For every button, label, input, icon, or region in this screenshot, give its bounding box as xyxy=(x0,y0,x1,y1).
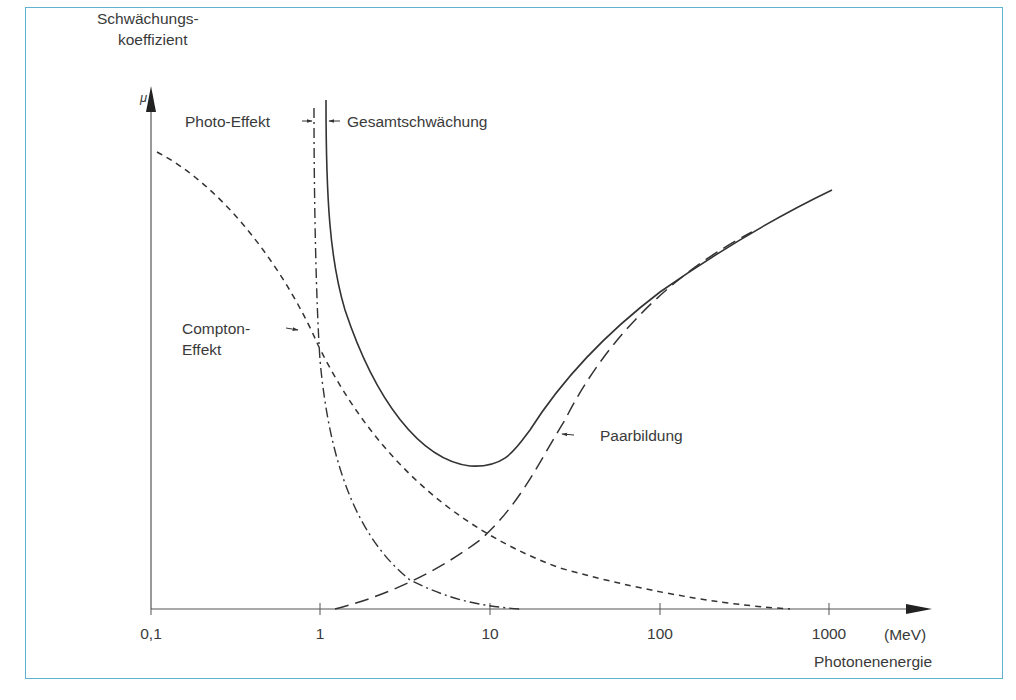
label-paarbildung: Paarbildung xyxy=(600,426,683,445)
paar-annotation-arrow-icon xyxy=(562,434,574,435)
x-tick-1000: 1000 xyxy=(812,625,846,643)
label-compton-line1: Compton- xyxy=(182,319,250,338)
x-tick-1: 1 xyxy=(316,625,325,643)
y-axis-title-line1: Schwächungs- xyxy=(97,9,199,28)
x-axis-unit: (MeV) xyxy=(884,625,926,644)
x-axis-title: Photonenenergie xyxy=(814,652,932,671)
series-paarbildung xyxy=(335,232,752,609)
y-axis xyxy=(146,86,156,609)
y-axis-symbol: μ xyxy=(140,88,147,107)
chart-plot xyxy=(0,0,1016,700)
compton-annotation-arrow-icon xyxy=(286,328,298,330)
x-axis-arrow-icon xyxy=(906,604,932,614)
x-axis xyxy=(151,603,932,615)
x-tick-100: 100 xyxy=(647,625,673,643)
series-compton xyxy=(157,152,790,609)
y-axis-title-line2: koeffizient xyxy=(118,30,188,49)
label-photo-effekt: Photo-Effekt xyxy=(185,112,270,131)
label-compton-line2: Effekt xyxy=(182,340,221,359)
x-tick-0-1: 0,1 xyxy=(140,625,162,643)
series-gesamtschwaechung xyxy=(326,100,832,466)
y-axis-arrow-icon xyxy=(146,86,156,112)
label-gesamtschwaechung: Gesamtschwächung xyxy=(347,112,487,131)
x-tick-10: 10 xyxy=(481,625,498,643)
series-photo-effekt xyxy=(314,108,520,609)
